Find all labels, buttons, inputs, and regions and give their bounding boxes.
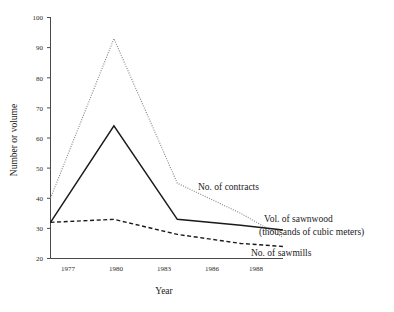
line-chart-figure: 100 90 80 70 60 50 40 30 20 1977 1980 19… xyxy=(0,0,394,312)
y-tick-label: 20 xyxy=(36,255,44,263)
series-line-vol-of-sawnwood xyxy=(51,126,284,230)
x-tick-label: 1980 xyxy=(109,265,124,273)
annotation-no-of-contracts: No. of contracts xyxy=(198,182,259,192)
y-tick-label: 30 xyxy=(36,225,44,233)
chart-canvas: 100 90 80 70 60 50 40 30 20 1977 1980 19… xyxy=(0,0,394,312)
x-tick-label: 1983 xyxy=(157,265,172,273)
y-tick-label: 50 xyxy=(36,165,44,173)
y-axis-title: Number or volume xyxy=(9,104,19,176)
annotation-vol-of-sawnwood-units: (thousands of cubic meters) xyxy=(259,227,364,238)
y-axis-ticks xyxy=(47,18,51,259)
x-tick-label: 1977 xyxy=(61,265,76,273)
x-axis-title: Year xyxy=(155,286,173,296)
y-tick-label: 100 xyxy=(33,14,44,22)
y-tick-label: 80 xyxy=(36,75,44,83)
series-line-no-of-contracts xyxy=(51,39,284,238)
annotation-no-of-sawmills: No. of sawmills xyxy=(251,248,312,258)
x-tick-label: 1988 xyxy=(249,265,264,273)
y-tick-label: 70 xyxy=(36,105,44,113)
annotation-vol-of-sawnwood: Vol. of sawnwood xyxy=(264,214,333,224)
y-tick-label: 40 xyxy=(36,195,44,203)
y-tick-label: 60 xyxy=(36,135,44,143)
x-tick-label: 1986 xyxy=(205,265,220,273)
y-tick-label: 90 xyxy=(36,44,44,52)
series-line-no-of-sawmills xyxy=(51,219,284,246)
